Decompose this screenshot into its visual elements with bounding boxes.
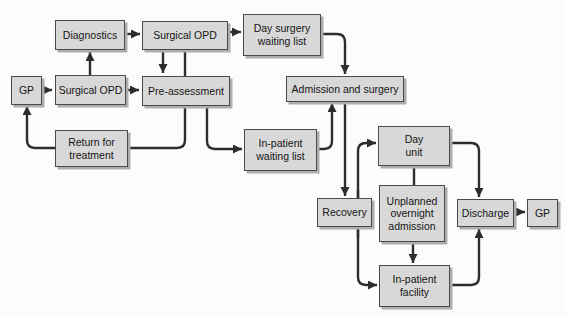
- node-return-for-treatment: Return for treatment: [55, 130, 128, 167]
- node-recovery: Recovery: [317, 198, 372, 227]
- edge-pre-assessment-return-for-treatment-line: [128, 106, 185, 148]
- edge-pre-assessment-to-in-patient-list: [207, 106, 242, 149]
- node-day-unit: Day unit: [378, 126, 450, 166]
- flowchart-canvas: GP Diagnostics Surgical OPD Day surgery …: [0, 0, 566, 317]
- edge-return-for-treatment-to-gp: [27, 106, 55, 148]
- node-unplanned-overnight-admission: Unplanned overnight admission: [379, 185, 445, 242]
- node-diagnostics: Diagnostics: [55, 20, 125, 50]
- node-in-patient-facility: In-patient facility: [379, 265, 450, 307]
- node-surgical-opd-lower: Surgical OPD: [55, 75, 126, 105]
- node-in-patient-waiting-list: In-patient waiting list: [244, 129, 317, 171]
- node-day-surgery-waiting-list: Day surgery waiting list: [243, 14, 321, 56]
- edge-day-unit-to-discharge: [450, 143, 479, 197]
- edge-in-patient-facility-to-discharge: [450, 229, 479, 285]
- node-gp-left: GP: [11, 76, 42, 105]
- node-discharge: Discharge: [457, 199, 514, 227]
- node-pre-assessment: Pre-assessment: [142, 76, 230, 106]
- edge-in-patient-list-to-admission: [317, 103, 332, 149]
- edge-day-surgery-list-to-admission: [321, 34, 345, 74]
- node-surgical-opd-upper: Surgical OPD: [142, 21, 228, 50]
- node-admission-and-surgery: Admission and surgery: [286, 76, 404, 102]
- node-gp-right: GP: [527, 199, 558, 227]
